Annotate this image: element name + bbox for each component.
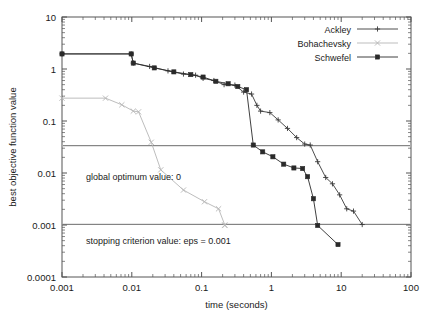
legend: AckleyBohachevskySchwefel [297, 25, 398, 63]
series-line-bohachevsky [62, 98, 225, 225]
legend-label-ackley: Ackley [324, 25, 351, 35]
series-line-ackley [62, 54, 362, 225]
global-optimum-annotation: global optimum value: 0 [86, 172, 181, 182]
legend-label-bohachevsky: Bohachevsky [297, 39, 351, 49]
series-schwefel [60, 52, 340, 247]
y-tick-label: 0.1 [43, 116, 56, 127]
legend-marker-schwefel [375, 55, 379, 59]
y-tick-label: 10 [45, 12, 56, 23]
convergence-chart: 0.0010.010.11101000.00010.0010.010.1110t… [0, 0, 431, 324]
legend-marker-ackley [375, 26, 380, 31]
y-tick-label: 0.001 [32, 220, 56, 231]
legend-label-schwefel: Schwefel [314, 53, 351, 63]
x-tick-label: 0.1 [195, 282, 208, 293]
series-bohachevsky [59, 96, 227, 229]
y-tick-label: 1 [51, 64, 56, 75]
stopping-criterion-annotation: stopping criterion value: eps = 0.001 [86, 236, 231, 246]
x-tick-label: 0.01 [123, 282, 142, 293]
x-tick-label: 1 [269, 282, 274, 293]
y-tick-label: 0.0001 [27, 272, 56, 283]
y-tick-label: 0.01 [38, 168, 57, 179]
x-tick-label: 100 [403, 282, 419, 293]
x-tick-label: 0.001 [50, 282, 74, 293]
y-axis-title: best objective function value [7, 87, 18, 206]
chart-canvas: 0.0010.010.11101000.00010.0010.010.1110t… [0, 0, 431, 324]
x-axis-title: time (seconds) [205, 299, 267, 310]
series-line-schwefel [62, 54, 338, 245]
series-ackley [59, 51, 364, 227]
x-tick-label: 10 [336, 282, 347, 293]
